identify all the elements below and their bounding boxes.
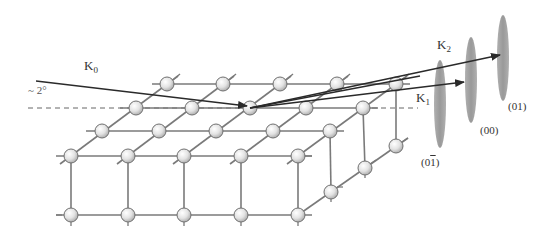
atom-bond-stubs [56,74,409,226]
lattice-svg [0,0,546,247]
streak-label-0-1bar: (01) [421,157,439,168]
streak-label-01: (01) [508,101,526,112]
k1-label: K1 [416,91,430,107]
beams [36,55,500,108]
streak-01 [497,15,509,101]
streak-00 [465,37,477,123]
diffraction-diagram: K0 ~ 2° K2 K1 (01) (00) (01) [0,0,546,247]
k2-label: K2 [437,38,451,54]
lattice-bonds [56,76,410,215]
streak-label-00: (00) [480,125,498,136]
k0-label: K0 [84,59,98,75]
incidence-angle-label: ~ 2° [28,85,47,96]
lattice-atoms [64,77,403,222]
streak-0-1bar [434,60,446,148]
